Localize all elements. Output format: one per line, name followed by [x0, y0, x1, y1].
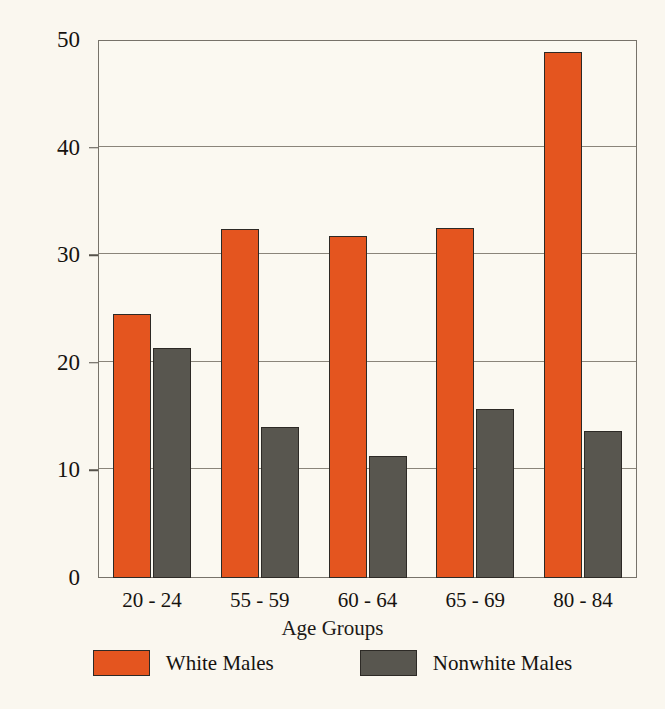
y-axis-tick-label: 0: [20, 565, 80, 591]
legend-swatch-nonwhite-males: [360, 650, 417, 676]
bar-nonwhite-males: [584, 431, 622, 578]
x-axis-tick-label: 80 - 84: [529, 588, 637, 613]
legend-item: White Males: [93, 650, 274, 676]
bar-white-males: [436, 228, 474, 578]
bars-layer: [98, 40, 637, 578]
y-axis-tick-mark: [89, 147, 98, 149]
x-axis-tick-label: 60 - 64: [314, 588, 422, 613]
y-axis-tick-mark: [89, 362, 98, 364]
x-axis-tick-label: 20 - 24: [98, 588, 206, 613]
legend-item: Nonwhite Males: [360, 650, 572, 676]
y-axis-tick-mark: [89, 470, 98, 472]
bar-white-males: [221, 229, 259, 578]
bar-white-males: [113, 314, 151, 578]
y-axis-tick-label: 50: [20, 27, 80, 53]
legend-swatch-white-males: [93, 650, 150, 676]
y-axis-tick-mark: [89, 254, 98, 256]
bar-nonwhite-males: [261, 427, 299, 578]
x-axis-title: Age Groups: [0, 616, 665, 641]
y-axis-tick-label: 10: [20, 457, 80, 483]
legend-label: White Males: [166, 651, 274, 676]
bar-nonwhite-males: [369, 456, 407, 578]
chart-legend: White MalesNonwhite Males: [0, 650, 665, 676]
y-axis-tick-label: 20: [20, 350, 80, 376]
y-axis-tick-label: 40: [20, 135, 80, 161]
y-axis-tick-label: 30: [20, 242, 80, 268]
bar-white-males: [544, 52, 582, 578]
x-axis-tick-label: 65 - 69: [421, 588, 529, 613]
bar-chart: Suicide Rate/100,000 Population 01020304…: [0, 0, 665, 709]
bar-white-males: [329, 236, 367, 578]
bar-nonwhite-males: [476, 409, 514, 578]
bar-nonwhite-males: [153, 348, 191, 578]
legend-label: Nonwhite Males: [433, 651, 572, 676]
x-axis-tick-label: 55 - 59: [206, 588, 314, 613]
